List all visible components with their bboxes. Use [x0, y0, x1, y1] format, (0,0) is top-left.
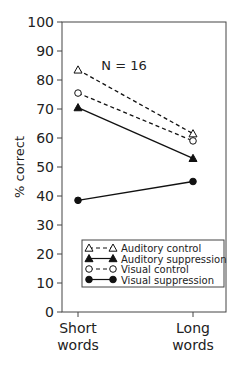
- y-tick-label: 100: [27, 14, 54, 30]
- open-circle-marker: [110, 266, 117, 273]
- legend-label: Auditory suppression: [121, 254, 227, 265]
- y-tick-label: 40: [36, 188, 54, 204]
- series-line: [78, 108, 193, 159]
- y-tick-label: 80: [36, 72, 54, 88]
- x-tick-label: Short: [59, 320, 97, 336]
- series-auditory-suppression: [74, 104, 197, 162]
- legend: Auditory controlAuditory suppressionVisu…: [82, 240, 227, 287]
- series-visual-control: [75, 90, 197, 144]
- y-tick-label: 10: [36, 275, 54, 291]
- open-triangle-marker: [189, 130, 197, 137]
- y-tick-label: 90: [36, 43, 54, 59]
- filled-circle-marker: [75, 197, 82, 204]
- filled-triangle-marker: [74, 104, 82, 111]
- y-tick-label: 0: [45, 304, 54, 320]
- series-auditory-control: [74, 66, 197, 137]
- series-line: [78, 182, 193, 201]
- legend-label: Visual suppression: [121, 275, 214, 286]
- y-tick-label: 20: [36, 246, 54, 262]
- series-line: [78, 70, 193, 134]
- open-circle-marker: [86, 266, 93, 273]
- open-circle-marker: [190, 138, 197, 145]
- filled-circle-marker: [86, 276, 93, 283]
- filled-circle-marker: [190, 178, 197, 185]
- x-tick-label: Long: [176, 320, 210, 336]
- y-tick-label: 50: [36, 159, 54, 175]
- legend-label: Auditory control: [121, 243, 201, 254]
- legend-label: Visual control: [121, 264, 189, 275]
- x-tick-label: words: [172, 337, 214, 353]
- filled-triangle-marker: [189, 154, 197, 161]
- open-circle-marker: [75, 90, 82, 97]
- y-tick-label: 60: [36, 130, 54, 146]
- x-tick-label: words: [57, 337, 99, 353]
- y-tick-label: 70: [36, 101, 54, 117]
- series-line: [78, 93, 193, 141]
- open-triangle-marker: [74, 66, 82, 73]
- y-axis-label: % correct: [12, 136, 27, 198]
- filled-circle-marker: [110, 276, 117, 283]
- series-group: [74, 66, 197, 204]
- series-visual-suppression: [75, 178, 197, 203]
- line-chart: 0102030405060708090100ShortwordsLongword…: [0, 0, 237, 367]
- n-annotation: N = 16: [101, 58, 146, 73]
- y-tick-label: 30: [36, 217, 54, 233]
